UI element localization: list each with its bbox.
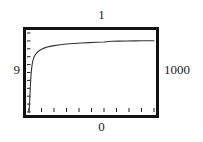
chart-top-label: 1 bbox=[0, 8, 203, 22]
chart-right-axis-label: 1000 bbox=[164, 63, 190, 77]
x-axis-ticks bbox=[29, 108, 154, 112]
data-series-line bbox=[29, 41, 154, 112]
chart-screenshot: 1 9 1000 0 bbox=[0, 0, 203, 142]
chart-left-axis-label: 9 bbox=[4, 63, 20, 77]
chart-bottom-label: 0 bbox=[0, 120, 203, 134]
plot-frame bbox=[23, 27, 159, 118]
chart-curve-svg bbox=[26, 30, 156, 115]
plot-area bbox=[26, 30, 156, 115]
